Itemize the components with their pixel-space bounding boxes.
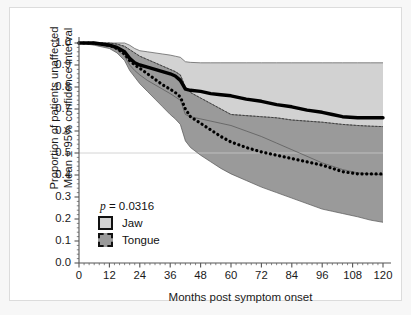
p-value-number: 0.0316 bbox=[119, 200, 154, 212]
figure-frame: Proportion of patients unaffected Mean ±… bbox=[9, 7, 402, 301]
figure-container: Proportion of patients unaffected Mean ±… bbox=[0, 0, 411, 315]
p-value-equals: = bbox=[106, 200, 119, 212]
legend-swatch-jaw bbox=[98, 216, 113, 230]
legend-item-jaw: Jaw bbox=[98, 216, 160, 230]
legend: p = 0.0316 Jaw Tongue bbox=[98, 200, 160, 250]
kaplan-meier-plot bbox=[10, 8, 403, 302]
legend-item-tongue: Tongue bbox=[98, 233, 160, 247]
legend-label-jaw: Jaw bbox=[122, 217, 142, 229]
legend-swatch-tongue bbox=[98, 233, 113, 247]
legend-label-tongue: Tongue bbox=[122, 234, 160, 246]
p-value-annotation: p = 0.0316 bbox=[100, 200, 160, 212]
